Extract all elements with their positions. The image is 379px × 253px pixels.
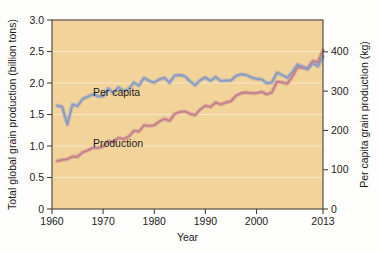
grain-production-chart: 00.51.01.52.02.53.0010020030040019601970… <box>0 0 379 253</box>
tick-label-bottom-1970: 1970 <box>91 215 115 227</box>
tick-label-right-300: 300 <box>331 85 349 97</box>
tick-label-right-200: 200 <box>331 124 349 136</box>
tick-label-bottom-1990: 1990 <box>194 215 218 227</box>
tick-label-left-0: 0 <box>38 203 44 215</box>
tick-label-bottom-1980: 1980 <box>143 215 167 227</box>
tick-label-left-2.0: 2.0 <box>29 77 44 89</box>
tick-label-right-0: 0 <box>331 203 337 215</box>
tick-label-bottom-2000: 2000 <box>245 215 269 227</box>
left-axis-title: Total global grain production (billion t… <box>6 19 18 210</box>
tick-label-right-400: 400 <box>331 45 349 57</box>
tick-label-bottom-2013: 2013 <box>311 215 335 227</box>
tick-label-left-2.5: 2.5 <box>29 45 44 57</box>
chart-figure: 00.51.01.52.02.53.0010020030040019601970… <box>0 0 379 253</box>
tick-label-left-1.5: 1.5 <box>29 108 44 120</box>
tick-label-left-3.0: 3.0 <box>29 14 44 26</box>
annotation-production: Production <box>93 137 143 149</box>
tick-label-left-1.0: 1.0 <box>29 140 44 152</box>
right-axis-title: Per capita grain production (kg) <box>358 41 370 188</box>
tick-label-right-100: 100 <box>331 163 349 175</box>
tick-label-left-0.5: 0.5 <box>29 171 44 183</box>
x-axis-title: Year <box>177 231 199 243</box>
tick-label-bottom-1960: 1960 <box>40 215 64 227</box>
annotation-per-capita: Per capita <box>93 86 140 98</box>
